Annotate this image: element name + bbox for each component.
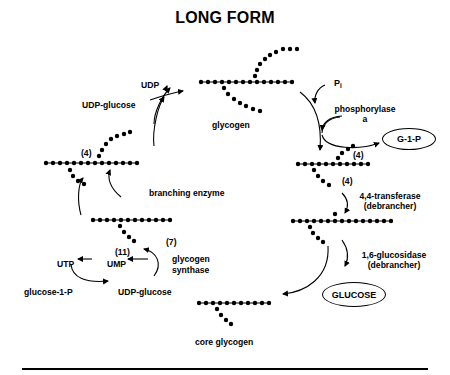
label-four-left: (4) xyxy=(81,148,92,158)
arrow-udp-up-tick xyxy=(165,86,167,91)
label-glycogen: glycogen xyxy=(212,120,250,130)
arrow-utp-to-udp-glucose xyxy=(71,264,108,281)
glycogen-molecule-branched-left xyxy=(44,130,139,186)
arrow-branching-up xyxy=(109,170,121,197)
arrow-glycogen-synthase xyxy=(144,249,158,276)
label-transferase: 4,4-transferase (debrancher) xyxy=(355,191,425,211)
label-four-right-lower: (4) xyxy=(342,176,353,186)
label-branching-enzyme: branching enzyme xyxy=(149,188,224,198)
glycogen-molecule-core xyxy=(197,301,271,326)
glycogen-cycle-diagram xyxy=(0,0,450,375)
label-transferase-line2: (debrancher) xyxy=(355,201,425,211)
label-glycogen-synthase-line1: glycogen xyxy=(172,254,210,265)
label-udp: UDP xyxy=(141,80,159,90)
arrow-to-core-glycogen xyxy=(283,246,328,294)
label-four-right-upper: (4) xyxy=(353,150,364,160)
label-utp: UTP xyxy=(57,259,74,269)
arrow-glucosidase xyxy=(342,240,348,266)
arrow-transferase xyxy=(342,193,347,213)
label-udp-glucose-top: UDP-glucose xyxy=(82,100,135,110)
label-glucose-1-p: glucose-1-P xyxy=(24,287,73,297)
bottom-rule xyxy=(22,368,428,370)
label-phosphorylase: phosphorylase a xyxy=(332,104,398,124)
label-glycogen-synthase-line2: synthase xyxy=(172,265,210,276)
glycogen-molecule-top xyxy=(199,47,299,113)
arrow-glycogen-to-phosphorylase xyxy=(300,92,320,150)
label-glucosidase-line2: (debrancher) xyxy=(356,260,432,270)
label-glucosidase-line1: 1,6-glucosidase xyxy=(356,250,432,260)
label-transferase-line1: 4,4-transferase xyxy=(355,191,425,201)
label-phosphorylase-line2: a xyxy=(332,114,398,124)
label-ump: UMP xyxy=(107,259,126,269)
label-eleven: (11) xyxy=(115,247,130,257)
label-core-glycogen: core glycogen xyxy=(195,337,253,347)
label-seven: (7) xyxy=(166,237,177,247)
g1p-oval: G-1-P xyxy=(382,128,436,150)
label-phosphorylase-line1: phosphorylase xyxy=(332,104,398,114)
label-udp-glucose-bottom: UDP-glucose xyxy=(118,287,171,297)
label-pi-subscript: i xyxy=(340,82,342,89)
label-glucosidase: 1,6-glucosidase (debrancher) xyxy=(356,250,432,270)
arrow-pi-in xyxy=(315,85,325,103)
glycogen-molecule-right-lower xyxy=(291,212,393,244)
glucose-oval: GLUCOSE xyxy=(322,282,386,307)
label-glycogen-synthase: glycogen synthase xyxy=(172,254,210,276)
glycogen-molecule-left-lower xyxy=(91,218,172,243)
label-pi: Pi xyxy=(334,78,342,91)
arrow-to-g1p xyxy=(322,135,379,148)
